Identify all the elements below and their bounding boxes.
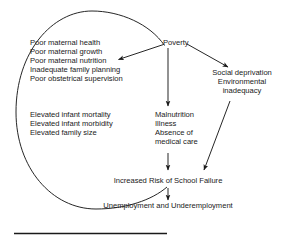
list-item: Inadequate family planning	[30, 65, 123, 74]
list-item: Poor maternal health	[30, 38, 123, 47]
social-factors-list: Social deprivation Environmental inadequ…	[199, 68, 285, 95]
list-item: inadequacy	[199, 86, 285, 95]
list-item: Elevated infant mortality	[30, 110, 113, 119]
list-item: Absence of	[155, 128, 198, 137]
diagram-canvas: Poverty Poor maternal health Poor matern…	[0, 0, 287, 245]
list-item: Environmental	[199, 77, 285, 86]
node-employment: Unemployment and Underemployment	[78, 201, 258, 210]
node-employment-label: Unemployment and Underemployment	[103, 201, 232, 210]
list-item: Poor obstetrical supervision	[30, 74, 123, 83]
health-factors-list: Malnutrition Illness Absence of medical …	[155, 110, 198, 146]
list-item: medical care	[155, 137, 198, 146]
list-item: Elevated infant morbidity	[30, 119, 113, 128]
list-item: Illness	[155, 119, 198, 128]
arrow-social-to-school-failure	[204, 101, 230, 170]
list-item: Elevated family size	[30, 128, 113, 137]
node-poverty: Poverty	[163, 38, 189, 47]
arrow-poverty-to-maternal	[119, 45, 164, 60]
node-poverty-label: Poverty	[163, 38, 189, 47]
arrow-poverty-to-social	[187, 44, 228, 67]
list-item: Social deprivation	[199, 68, 285, 77]
node-school-failure: Increased Risk of School Failure	[88, 176, 248, 185]
node-school-failure-label: Increased Risk of School Failure	[114, 176, 223, 185]
list-item: Malnutrition	[155, 110, 198, 119]
maternal-factors-list: Poor maternal health Poor maternal growt…	[30, 38, 123, 83]
list-item: Poor maternal nutrition	[30, 56, 123, 65]
infant-outcomes-list: Elevated infant mortality Elevated infan…	[30, 110, 113, 137]
list-item: Poor maternal growth	[30, 47, 123, 56]
